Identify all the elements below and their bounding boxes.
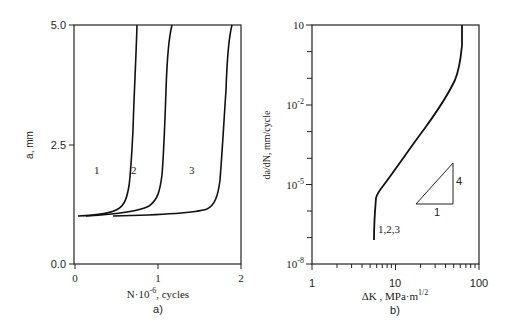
panel-a-curve-1 (78, 25, 137, 216)
panel-a-plot-frame (74, 25, 241, 264)
panel-a: 5.0 2.5 0.0 0 1 2 a, mm N·10-6, cycles a… (24, 19, 244, 315)
panel-b-caption: b) (390, 304, 400, 316)
panel-a-curve-3 (113, 25, 232, 216)
panel-a-ylabel: a, mm (24, 131, 35, 159)
panel-b-xtick-1: 1 (309, 277, 315, 289)
panel-b-xtick-10: 10 (389, 277, 401, 289)
slope-run-label: 1 (434, 206, 440, 218)
panel-b-ylabel: da/dN, mm/cycle (261, 110, 272, 179)
panel-b-ytick-1e-2: 10-2 (286, 97, 304, 111)
panel-b-curve (374, 25, 462, 240)
panel-a-curve-label-2: 2 (131, 164, 137, 176)
panel-a-ytick-0: 0.0 (51, 258, 66, 270)
panel-b-ytick-1e-5: 10-5 (286, 177, 304, 191)
panel-a-caption: a) (153, 303, 163, 315)
panel-a-ytick-5: 5.0 (51, 19, 66, 31)
panel-a-curve-label-1: 1 (94, 164, 100, 176)
figure: 5.0 2.5 0.0 0 1 2 a, mm N·10-6, cycles a… (0, 0, 514, 333)
panel-a-xtick-1: 1 (155, 272, 161, 284)
panel-b-curve-label: 1,2,3 (378, 223, 401, 235)
panel-a-curve-label-3: 3 (189, 164, 195, 176)
panel-b-xlabel: ΔK , MPa·m1/2 (362, 288, 429, 302)
panel-a-xtick-0: 0 (72, 272, 78, 284)
panel-b: 10 10-2 10-5 10-8 1 10 100 da/dN, mm/cyc… (261, 19, 488, 316)
panel-b-ytick-10: 10 (293, 19, 305, 31)
panel-a-xlabel: N·10-6, cycles (127, 286, 189, 300)
slope-rise-label: 4 (456, 175, 462, 187)
panel-b-ytick-1e-8: 10-8 (286, 256, 304, 270)
panel-a-xtick-2: 2 (238, 272, 244, 284)
slope-triangle (416, 163, 453, 204)
panel-a-ytick-2.5: 2.5 (51, 139, 66, 151)
panel-b-xtick-100: 100 (470, 277, 488, 289)
